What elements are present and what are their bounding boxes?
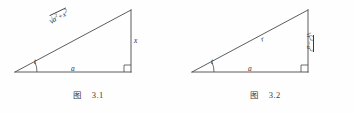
right-angle-marker-2 xyxy=(301,65,308,72)
figure-caption-2: 图3.2 xyxy=(177,88,354,100)
vertical-side-label-1: x xyxy=(134,36,137,45)
hypotenuse-line-2 xyxy=(192,10,308,72)
caption-cjk-1: 图 xyxy=(73,90,83,100)
vertical-side-label-2: √r2−a2 xyxy=(305,32,315,52)
caption-number-2: 3.2 xyxy=(269,90,281,100)
figure-3-2: r t a √r2−a2 图3.2 xyxy=(177,0,354,114)
base-label-1: a xyxy=(71,64,75,73)
base-label-2: a xyxy=(248,64,252,73)
figure-3-1: √a2+x2 t a x 图3.1 xyxy=(0,0,177,114)
caption-number-1: 3.1 xyxy=(92,90,104,100)
caption-cjk-2: 图 xyxy=(250,90,260,100)
angle-label-1: t xyxy=(34,57,36,66)
right-angle-marker-1 xyxy=(124,65,131,72)
figure-caption-1: 图3.1 xyxy=(0,88,177,100)
angle-label-2: t xyxy=(211,57,213,66)
figure-sheet: √a2+x2 t a x 图3.1 r t a √r2−a2 xyxy=(0,0,354,114)
hypotenuse-line-1 xyxy=(15,10,131,72)
radicand-a-exponent-2: 2 xyxy=(310,49,315,51)
